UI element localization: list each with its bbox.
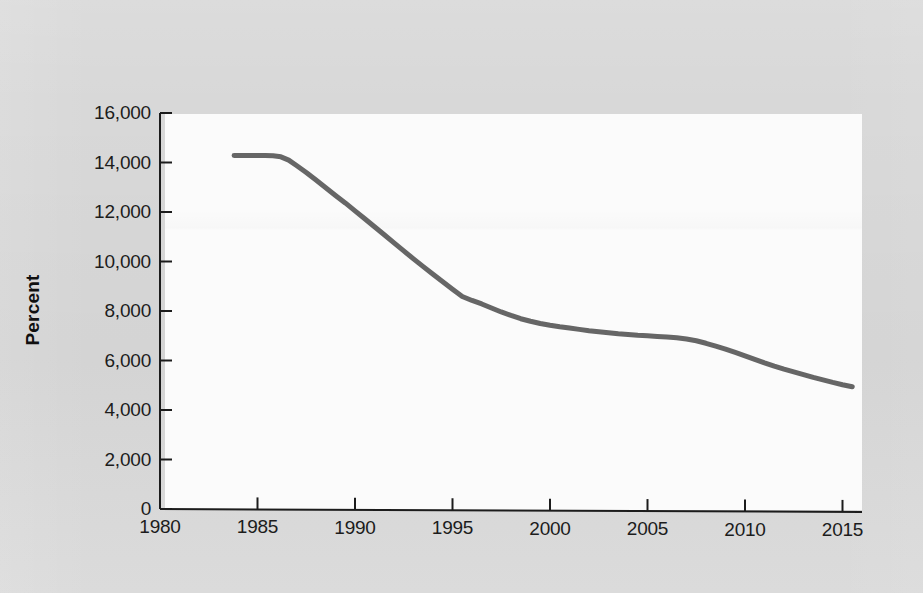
chart-axes <box>160 113 862 512</box>
y-axis-tick-label: 8,000 <box>104 300 151 322</box>
line-chart <box>0 0 923 593</box>
y-axis-tick-label: 10,000 <box>94 251 151 273</box>
y-axis-ticks <box>160 113 172 509</box>
y-axis-tick-label: 16,000 <box>94 102 151 124</box>
x-axis-tick-label: 1990 <box>334 517 375 539</box>
y-axis-tick-label: 2,000 <box>104 449 151 471</box>
data-series-line <box>234 155 852 386</box>
x-axis-tick-label: 2005 <box>627 518 668 540</box>
y-axis-tick-label: 12,000 <box>94 201 151 223</box>
x-axis-tick-label: 2010 <box>724 519 765 541</box>
y-axis-tick-label: 6,000 <box>104 350 151 372</box>
y-axis-tick-label: 4,000 <box>104 399 151 421</box>
x-axis-tick-label: 2015 <box>822 519 863 541</box>
x-axis-tick-label: 2000 <box>529 518 570 540</box>
x-axis-tick-label: 1980 <box>139 516 180 538</box>
x-axis-tick-label: 1985 <box>237 516 278 538</box>
x-axis-tick-label: 1995 <box>432 517 473 539</box>
y-axis-tick-label: 14,000 <box>94 152 151 174</box>
x-axis-line <box>160 509 862 512</box>
y-axis-title: Percent <box>22 274 44 345</box>
scanned-page: 02,0004,0006,0008,00010,00012,00014,0001… <box>0 0 923 593</box>
